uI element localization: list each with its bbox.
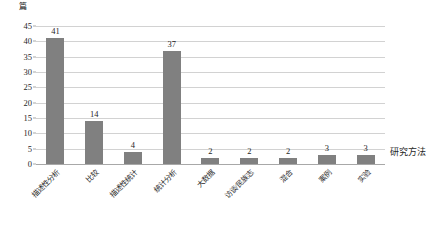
x-axis-tick-label: 描述性统计: [108, 168, 139, 199]
y-axis-tick-label: 25: [24, 83, 33, 92]
x-axis-label-slot: 混合: [269, 166, 308, 236]
x-axis-tick-label: 大数据: [196, 168, 217, 189]
bar[interactable]: [279, 158, 297, 164]
y-axis-unit-label: 篇: [19, 2, 27, 12]
y-axis-tick-label: 10: [24, 129, 33, 138]
x-axis-tick-label: 混合: [278, 168, 294, 184]
bar-value-label: 14: [90, 110, 99, 119]
bar-group[interactable]: 2: [230, 26, 269, 164]
bar-value-label: 2: [286, 147, 290, 156]
bar-value-label: 41: [51, 27, 60, 36]
x-axis-label-slot: 大数据: [191, 166, 230, 236]
x-axis-tick-label: 案例: [317, 168, 333, 184]
y-axis-tick-label: 15: [24, 114, 33, 123]
x-axis-label-slot: 访谈/民族志: [230, 166, 269, 236]
gridline: [36, 164, 385, 165]
x-axis-label-slot: 统计分析: [152, 166, 191, 236]
bar[interactable]: [357, 155, 375, 164]
bar-value-label: 2: [208, 147, 212, 156]
x-axis-label-slot: 实验: [346, 166, 385, 236]
bar-group[interactable]: 4: [114, 26, 153, 164]
bar-value-label: 3: [363, 144, 367, 153]
plot-area: 051015202530354045 411443722233: [36, 26, 385, 164]
bar-group[interactable]: 41: [36, 26, 75, 164]
bar[interactable]: [240, 158, 258, 164]
y-axis-tick-label: 35: [24, 52, 33, 61]
y-axis-tick-label: 0: [28, 160, 32, 169]
x-axis-tick-labels: 描述性分析比较描述性统计统计分析大数据访谈/民族志混合案例实验: [36, 166, 385, 236]
bar-series: 411443722233: [36, 26, 385, 164]
bar-value-label: 4: [131, 141, 135, 150]
x-axis-label-slot: 比较: [75, 166, 114, 236]
y-axis-tick-label: 20: [24, 98, 33, 107]
bar[interactable]: [124, 152, 142, 164]
x-axis-label-slot: 描述性统计: [114, 166, 153, 236]
bar-value-label: 37: [167, 40, 176, 49]
bar[interactable]: [46, 38, 64, 164]
bar[interactable]: [201, 158, 219, 164]
bar-chart: 篇 051015202530354045 411443722233 描述性分析比…: [0, 0, 428, 239]
y-axis-tick-label: 40: [24, 37, 33, 46]
bar-group[interactable]: 14: [75, 26, 114, 164]
x-axis-title: 研究方法: [390, 147, 426, 158]
bar-group[interactable]: 2: [269, 26, 308, 164]
bar[interactable]: [85, 121, 103, 164]
bar-value-label: 3: [325, 144, 329, 153]
bar-group[interactable]: 37: [152, 26, 191, 164]
y-axis-tick-label: 5: [28, 144, 32, 153]
bar-group[interactable]: 3: [307, 26, 346, 164]
bar[interactable]: [163, 51, 181, 164]
y-axis-tick-label: 30: [24, 68, 33, 77]
bar-group[interactable]: 3: [346, 26, 385, 164]
bar-group[interactable]: 2: [191, 26, 230, 164]
x-axis-tick-label: 描述性分析: [31, 168, 62, 199]
x-axis-tick-label: 实验: [356, 168, 372, 184]
x-axis-label-slot: 描述性分析: [36, 166, 75, 236]
x-axis-tick-label: 比较: [84, 168, 100, 184]
x-axis-label-slot: 案例: [307, 166, 346, 236]
bar[interactable]: [318, 155, 336, 164]
bar-value-label: 2: [247, 147, 251, 156]
y-axis-tick-label: 45: [24, 22, 33, 31]
x-axis-tick-label: 统计分析: [152, 168, 178, 194]
